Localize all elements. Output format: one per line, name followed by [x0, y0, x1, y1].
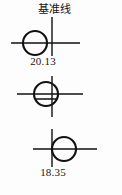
- figure-bottom-dimension-value: 18.35: [31, 166, 75, 178]
- engineering-diagram: 基准线 20.13 18.35: [0, 0, 122, 195]
- figure-top-group: [11, 17, 80, 56]
- figure-bottom-group: [33, 129, 97, 167]
- figure-top-dimension-value: 20.13: [21, 55, 65, 67]
- figure-middle-group: [17, 76, 83, 117]
